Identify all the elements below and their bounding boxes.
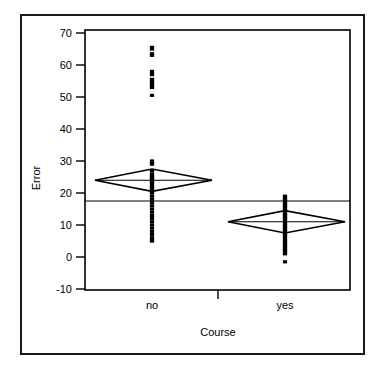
y-axis-title: Error	[30, 165, 42, 190]
x-axis-categories: noyes	[146, 299, 294, 311]
y-tick-label: 40	[60, 123, 72, 135]
x-category-label: yes	[276, 299, 294, 311]
data-point	[150, 195, 154, 198]
data-point	[150, 239, 154, 242]
data-point	[150, 227, 154, 230]
y-axis: 706050403020100-10	[56, 27, 85, 295]
y-tick-label: -10	[56, 283, 72, 295]
data-point	[150, 214, 154, 217]
y-tick-label: 50	[60, 91, 72, 103]
y-tick-label: 10	[60, 219, 72, 231]
x-category-label: no	[146, 299, 158, 311]
y-tick-label: 70	[60, 27, 72, 39]
data-point	[150, 54, 154, 57]
x-axis-title: Course	[200, 326, 235, 338]
data-point	[150, 94, 154, 97]
data-point	[283, 252, 287, 255]
data-point	[150, 163, 154, 166]
data-point	[150, 86, 154, 89]
data-point	[150, 230, 154, 233]
y-tick-label: 30	[60, 155, 72, 167]
data-point	[150, 198, 154, 201]
data-point	[283, 260, 287, 263]
figure-root: 706050403020100-10 Error noyes Course	[0, 0, 380, 367]
data-point	[150, 207, 154, 210]
oneway-analysis-chart: 706050403020100-10 Error noyes Course	[0, 0, 380, 367]
y-tick-label: 20	[60, 187, 72, 199]
data-point	[150, 217, 154, 220]
data-point	[150, 47, 154, 50]
data-point	[150, 201, 154, 204]
plot-frame	[85, 30, 350, 290]
data-point	[150, 220, 154, 223]
data-point	[150, 204, 154, 207]
data-point	[150, 211, 154, 214]
data-point	[150, 70, 154, 73]
data-point	[150, 223, 154, 226]
data-point	[150, 73, 154, 76]
data-point	[150, 233, 154, 236]
y-tick-label: 60	[60, 59, 72, 71]
y-tick-label: 0	[66, 251, 72, 263]
data-points	[150, 46, 287, 264]
